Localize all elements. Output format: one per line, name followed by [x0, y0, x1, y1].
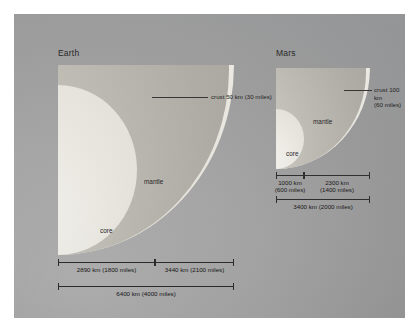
- earth-total-scale-label: 6400 km (4000 miles): [58, 290, 234, 297]
- mars-total-scale-label: 3400 km (2000 miles): [269, 203, 377, 210]
- earth-core-scale-label: 2890 km (1800 miles): [58, 266, 155, 273]
- mars-crust-leader: [344, 90, 372, 91]
- earth-crust-callout: crust 50 km (30 miles): [211, 93, 272, 101]
- mars-diagram: Mars mantle core: [14, 14, 194, 194]
- earth-mantle-scale-label: 3440 km (2100 miles): [155, 266, 234, 273]
- diagram-page: Earth mantle core crust 50 km (30 miles)…: [0, 0, 419, 331]
- mars-mantle-label: mantle: [313, 118, 332, 125]
- earth-core-label: core: [100, 227, 112, 234]
- mars-mantle-scale-label: 2300 km (1400 miles): [311, 179, 363, 194]
- mars-crust-callout: crust 100 km (60 miles): [374, 86, 405, 109]
- mars-title: Mars: [276, 48, 296, 58]
- illustration-panel: Earth mantle core crust 50 km (30 miles)…: [14, 14, 405, 318]
- mars-core-label: core: [286, 150, 298, 157]
